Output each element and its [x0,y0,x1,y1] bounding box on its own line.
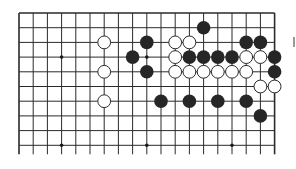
white-stone [183,65,196,78]
black-stone [268,50,282,64]
white-stone [268,80,281,93]
white-stone [169,51,182,64]
star-point [145,144,149,148]
black-stone [254,36,268,50]
white-stone [240,65,253,78]
star-point [60,55,64,59]
white-stone [226,65,239,78]
black-stone [140,65,154,79]
white-stone [254,80,267,93]
star-point [60,144,64,148]
black-stone [268,65,282,79]
white-stone [211,65,224,78]
black-stone [140,36,154,50]
black-stone [183,50,197,64]
black-stone [154,94,168,108]
black-stone [211,50,225,64]
white-stone [98,36,111,49]
white-stone [169,36,182,49]
star-point [230,144,234,148]
black-stone [126,50,140,64]
board-grid [19,13,275,154]
white-stone [169,65,182,78]
go-board [0,0,296,169]
white-stone [254,51,267,64]
black-stone [197,50,211,64]
white-stone [98,65,111,78]
white-stone [183,36,196,49]
black-stone [197,21,211,35]
page-edge-fragment [293,37,295,47]
black-stone [211,94,225,108]
star-point [145,55,149,59]
white-stone [98,95,111,108]
white-stone [197,65,210,78]
black-stone [254,109,268,123]
black-stone [225,50,239,64]
black-stone [239,94,253,108]
black-stone [239,36,253,50]
black-stone [183,94,197,108]
white-stone [240,51,253,64]
